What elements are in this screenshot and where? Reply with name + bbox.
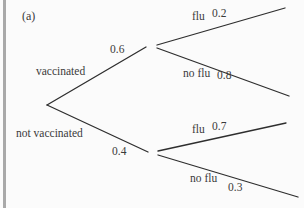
tree-branches — [0, 0, 304, 208]
branch-label-not-vaccinated: not vaccinated — [16, 128, 83, 140]
branch-probability-no-flu-given-vaccinated: 0.8 — [217, 70, 231, 82]
branch-label-no-flu-given-not-vaccinated: no flu — [190, 173, 217, 185]
branch-probability-not-vaccinated: 0.4 — [112, 146, 126, 158]
probability-tree-figure: (a) vaccinated 0.6 not vaccinated 0.4 fl… — [0, 0, 304, 208]
branch-label-no-flu-given-vaccinated: no flu — [183, 68, 210, 80]
branch-probability-vaccinated: 0.6 — [110, 44, 124, 56]
panel-tag: (a) — [22, 10, 35, 22]
branch-probability-flu-given-not-vaccinated: 0.7 — [212, 121, 226, 133]
branch-probability-flu-given-vaccinated: 0.2 — [212, 8, 226, 20]
branch-label-flu-given-vaccinated: flu — [192, 11, 205, 23]
branch-label-vaccinated: vaccinated — [36, 66, 85, 78]
branch-label-flu-given-not-vaccinated: flu — [192, 124, 205, 136]
branch-probability-no-flu-given-not-vaccinated: 0.3 — [228, 182, 242, 194]
